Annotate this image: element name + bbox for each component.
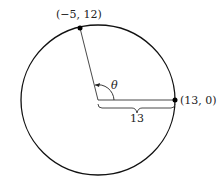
point-right-dot — [173, 98, 178, 103]
radius-line-top — [80, 28, 98, 100]
radius-label: 13 — [130, 112, 144, 125]
circle-diagram — [0, 0, 218, 180]
point-top-dot — [78, 26, 83, 31]
point-top-label: (−5, 12) — [56, 8, 102, 21]
angle-label: θ — [111, 79, 118, 92]
point-right-label: (13, 0) — [180, 94, 217, 107]
arrow-head — [95, 83, 100, 87]
